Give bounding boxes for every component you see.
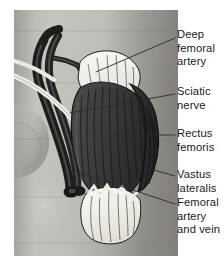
label-vastus-lateralis: Vastus lateralis [177, 168, 216, 195]
label-femoral-artery-and-vein: Femoral artery and vein [177, 196, 220, 237]
label-rectus-femoris: Rectus femoris [177, 127, 214, 154]
anatomy-overlay-layer [14, 10, 178, 256]
femoral-vessel-lumen [69, 189, 76, 193]
anatomical-figure: Deep femoral artery Sciatic nerve Rectus… [0, 0, 224, 265]
label-deep-femoral-artery: Deep femoral artery [177, 28, 215, 69]
label-sciatic-nerve: Sciatic nerve [177, 85, 211, 112]
distal-tendon-group [81, 185, 141, 244]
thigh-photograph [14, 10, 178, 256]
